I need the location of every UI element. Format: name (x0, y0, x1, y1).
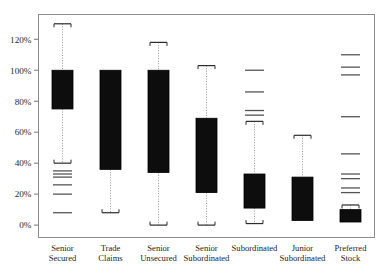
y-tick-label: 20% (15, 189, 32, 199)
y-tick-label: 0% (19, 220, 32, 230)
x-category-label: Preferred (335, 243, 368, 253)
x-category-label: Subordinated (184, 253, 231, 263)
chart-canvas: 0%20%40%60%80%100%120% SeniorSecuredTrad… (0, 0, 382, 274)
x-category-label: Trade (101, 243, 121, 253)
box-iqr (244, 174, 265, 208)
chart-background (0, 0, 382, 274)
y-tick-label: 120% (10, 35, 32, 45)
y-tick-label: 60% (15, 127, 32, 137)
box-iqr (196, 118, 217, 192)
x-category-label: Senior (147, 243, 170, 253)
y-tick-label: 80% (15, 97, 32, 107)
x-category-label: Stock (341, 253, 361, 263)
x-category-label: Senior (51, 243, 74, 253)
box-iqr (292, 177, 313, 220)
y-tick-label: 40% (15, 158, 32, 168)
x-category-label: Senior (195, 243, 218, 253)
box-iqr (52, 70, 73, 109)
x-category-label: Claims (98, 253, 123, 263)
box-iqr (148, 70, 169, 172)
x-category-label: Junior (292, 243, 314, 253)
boxplot-chart: 0%20%40%60%80%100%120% SeniorSecuredTrad… (0, 0, 382, 274)
box-iqr (340, 210, 361, 222)
x-category-label: Unsecured (140, 253, 177, 263)
x-category-label: Subordinated (232, 243, 279, 253)
x-category-label: Secured (49, 253, 77, 263)
box-iqr (100, 70, 121, 169)
x-category-label: Subordinated (280, 253, 327, 263)
y-tick-label: 100% (10, 66, 32, 76)
